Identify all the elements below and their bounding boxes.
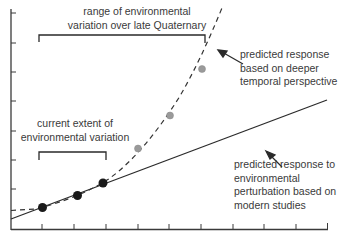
modern-studies-label: predicted response to environmental pert… (234, 158, 336, 212)
deeper-perspective-label-line3: temporal perspective (240, 75, 337, 89)
projected-point (135, 145, 142, 152)
late-quaternary-range-label: range of environmental variation over la… (52, 5, 222, 32)
current-extent-label-line2: environmental variation (20, 131, 130, 145)
observed-point (73, 191, 82, 200)
observed-point (38, 203, 47, 212)
deeper-perspective-label-line1: predicted response (240, 48, 337, 62)
current-extent-label-line1: current extent of (20, 117, 130, 131)
modern-studies-label-line4: modern studies (234, 199, 336, 213)
current-extent-bracket (39, 152, 106, 160)
late-quaternary-label-line2: variation over late Quaternary (52, 19, 222, 33)
projected-point (167, 112, 174, 119)
late-quaternary-range-bracket (39, 35, 205, 43)
x-ticks (42, 223, 328, 229)
modern-studies-label-line1: predicted response to (234, 158, 336, 172)
modern-studies-label-line2: environmental (234, 172, 336, 186)
deeper-perspective-label-line2: based on deeper (240, 62, 337, 76)
projected-point (199, 66, 206, 73)
current-extent-label: current extent of environmental variatio… (20, 117, 130, 144)
deeper-perspective-label: predicted response based on deeper tempo… (240, 48, 337, 89)
modern-studies-label-line3: perturbation based on (234, 185, 336, 199)
projected-points (135, 66, 206, 153)
deeper-perspective-response-curve (11, 8, 222, 211)
y-ticks (11, 13, 16, 189)
late-quaternary-label-line1: range of environmental (52, 5, 222, 19)
observed-point (99, 179, 108, 188)
